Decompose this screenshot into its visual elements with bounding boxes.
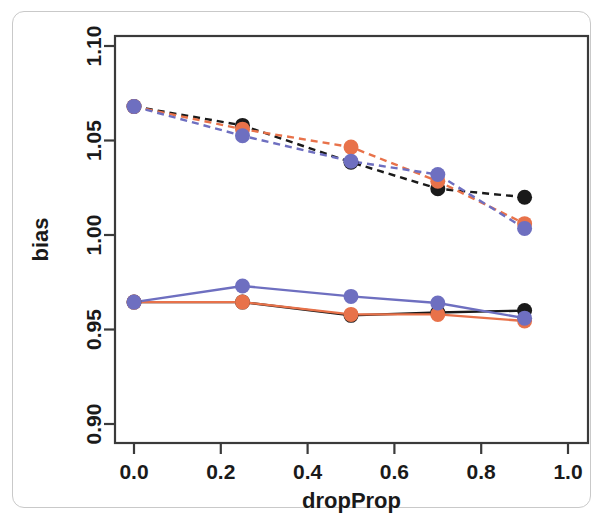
y-axis-tick-label: 0.95 (82, 309, 105, 350)
y-axis-tick-label: 1.00 (82, 215, 105, 256)
x-axis-title: dropProp (302, 488, 401, 513)
data-point-blue-dashed (517, 221, 532, 236)
series-line-blue-dashed (134, 106, 525, 228)
data-point-blue-solid (430, 296, 445, 311)
y-axis-tick-label: 1.10 (82, 26, 105, 67)
x-axis-tick-label: 0.0 (119, 460, 148, 483)
data-point-blue-solid (344, 289, 359, 304)
bias-vs-dropprop-chart: 0.00.20.40.60.81.00.900.951.001.051.10dr… (0, 0, 603, 519)
data-point-blue-solid (127, 295, 142, 310)
data-point-blue-dashed (344, 154, 359, 169)
chart-canvas: 0.00.20.40.60.81.00.900.951.001.051.10dr… (0, 0, 603, 519)
y-axis-title: bias (28, 217, 53, 261)
data-point-orange-solid (344, 307, 359, 322)
x-axis-tick-label: 0.8 (467, 460, 497, 483)
x-axis-tick-label: 1.0 (553, 460, 582, 483)
figure-container: 0.00.20.40.60.81.00.900.951.001.051.10dr… (0, 0, 603, 519)
data-point-black-dashed (517, 190, 532, 205)
series-line-black-dashed (134, 106, 525, 197)
data-point-orange-solid (235, 295, 250, 310)
y-axis-tick-label: 0.90 (82, 404, 105, 445)
data-point-blue-solid (235, 279, 250, 294)
series-line-orange-dashed (134, 106, 525, 223)
x-axis-tick-label: 0.4 (293, 460, 323, 483)
data-point-blue-solid (517, 311, 532, 326)
x-axis-tick-label: 0.6 (380, 460, 409, 483)
data-point-blue-dashed (430, 167, 445, 182)
x-axis-tick-label: 0.2 (206, 460, 235, 483)
data-point-orange-dashed (344, 140, 359, 155)
data-point-blue-dashed (127, 99, 142, 114)
data-point-blue-dashed (235, 128, 250, 143)
y-axis-tick-label: 1.05 (82, 120, 105, 161)
plot-box (115, 36, 588, 443)
